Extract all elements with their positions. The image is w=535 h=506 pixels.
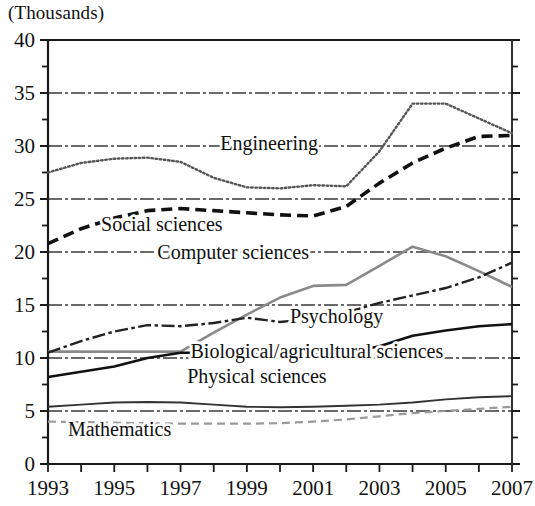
series-label-psychology: Psychology: [290, 305, 383, 328]
line-chart: (Thousands) 0510152025303540 19931995199…: [0, 0, 535, 506]
x-axis-tick-labels: 19931995199719992001200320052007: [27, 476, 533, 500]
x-tick-label: 1993: [27, 476, 69, 500]
chart-plot-area: 0510152025303540 19931995199719992001200…: [0, 0, 535, 506]
y-tick-label: 20: [14, 240, 35, 264]
y-tick-label: 40: [14, 28, 35, 52]
x-tick-label: 1997: [160, 476, 202, 500]
series-label-social-sciences: Social sciences: [101, 213, 223, 235]
series-line-physical-sciences: [48, 396, 512, 407]
y-axis-tick-labels: 0510152025303540: [14, 28, 35, 476]
series-label-engineering: Engineering: [220, 132, 318, 155]
y-tick-label: 5: [25, 399, 36, 423]
x-tick-label: 2001: [292, 476, 334, 500]
y-tick-label: 30: [14, 134, 35, 158]
x-tick-label: 1995: [93, 476, 135, 500]
x-tick-label: 2007: [491, 476, 533, 500]
series-label-computer-sciences: Computer sciences: [157, 241, 309, 264]
series-label-biological-agricultural-sciences: Biological/agricultural sciences: [191, 340, 444, 363]
y-tick-label: 0: [25, 452, 36, 476]
series-label-mathematics: Mathematics: [68, 418, 172, 440]
x-tick-label: 2005: [425, 476, 467, 500]
y-tick-label: 15: [14, 293, 35, 317]
series-inline-labels: EngineeringEngineeringSocial sciencesSoc…: [68, 132, 444, 440]
x-tick-label: 1999: [226, 476, 268, 500]
y-tick-label: 10: [14, 346, 35, 370]
y-tick-label: 25: [14, 187, 35, 211]
x-tick-label: 2003: [358, 476, 400, 500]
y-tick-label: 35: [14, 81, 35, 105]
series-label-physical-sciences: Physical sciences: [187, 365, 327, 388]
